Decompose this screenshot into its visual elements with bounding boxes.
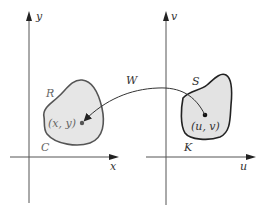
v-axis-arrow-icon [163,11,169,21]
region-s-label: S [192,75,200,88]
u-axis-arrow-icon [246,154,256,160]
point-xy-label: (x, y) [48,117,76,130]
v-axis-label: v [171,10,178,23]
x-axis-label: x [110,160,117,173]
y-axis-arrow-icon [26,11,32,21]
diagram-canvas: y x R C (x, y) v u S K (u, v) W [0,0,258,213]
region-r-label: R [45,87,54,100]
mapping-w-label: W [126,74,139,87]
transformation-diagram: y x R C (x, y) v u S K (u, v) W [0,0,258,213]
boundary-k-label: K [183,141,193,154]
u-axis-label: u [240,160,247,173]
point-uv-label: (u, v) [191,120,220,133]
left-coordinate-plane [10,11,119,203]
point-xy [80,121,84,125]
y-axis-label: y [35,10,43,23]
boundary-c-label: C [41,141,50,154]
